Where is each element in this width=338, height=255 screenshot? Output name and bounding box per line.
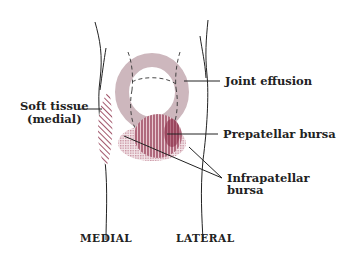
- label-infrapatellar-bursa-line2: bursa: [227, 184, 263, 196]
- label-soft-tissue-medial: (medial): [27, 113, 82, 125]
- orientation-lateral: LATERAL: [176, 232, 235, 244]
- orientation-medial: MEDIAL: [80, 232, 132, 244]
- label-soft-tissue: Soft tissue: [20, 100, 89, 112]
- label-prepatellar-bursa: Prepatellar bursa: [223, 128, 336, 140]
- soft-tissue-region: [98, 92, 112, 165]
- label-joint-effusion: Joint effusion: [225, 75, 312, 87]
- knee-diagram: Joint effusion Soft tissue (medial) Prep…: [0, 0, 338, 255]
